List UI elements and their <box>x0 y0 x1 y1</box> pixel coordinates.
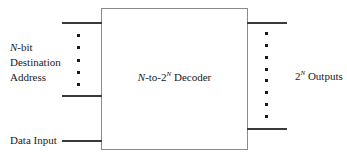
bus-dot <box>77 59 80 62</box>
data-input-label: Data Input <box>10 133 57 148</box>
address-label-line-1: N-bit <box>10 40 61 55</box>
data-input-wire <box>62 140 102 142</box>
decoder-label-middle: -to-2 <box>145 71 166 83</box>
decoder-label-suffix: Decoder <box>171 71 211 83</box>
address-label-line-3: Address <box>10 70 61 85</box>
bus-dot <box>265 44 268 47</box>
address-label-line-2: Destination <box>10 55 61 70</box>
bus-dot <box>77 46 80 49</box>
bus-dot <box>265 115 268 118</box>
address-input-label: N-bit Destination Address <box>10 40 61 85</box>
output-bus-wire-top <box>247 22 287 24</box>
bus-dot <box>265 56 268 59</box>
bus-dot <box>77 71 80 74</box>
bus-dot <box>77 83 80 86</box>
output-bus-wire-bottom <box>247 128 287 130</box>
bus-dot <box>265 79 268 82</box>
output-bus-ellipsis-dots <box>265 32 268 118</box>
address-bus-wire-top <box>62 22 102 24</box>
bus-dot <box>265 32 268 35</box>
bus-dot <box>265 91 268 94</box>
decoder-diagram: N-to-2N Decoder N-bit Destination Addres… <box>0 0 347 159</box>
address-label-bit: -bit <box>17 41 32 53</box>
outputs-label-rest: Outputs <box>305 70 343 82</box>
decoder-block-label: N-to-2N Decoder <box>101 71 248 84</box>
address-bus-wire-bottom <box>62 95 102 97</box>
outputs-label: 2N Outputs <box>295 69 343 84</box>
bus-dot <box>265 68 268 71</box>
bus-dot <box>77 34 80 37</box>
bus-dot <box>265 103 268 106</box>
address-bus-ellipsis-dots <box>77 34 80 86</box>
